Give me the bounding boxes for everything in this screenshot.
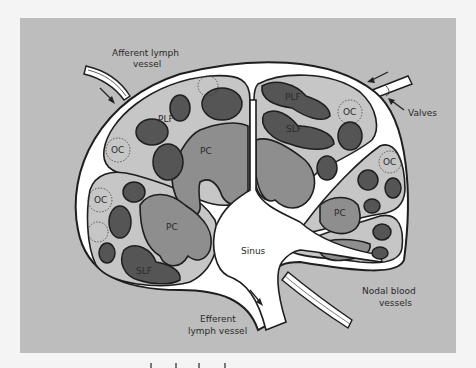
label-oc-left-upper: OC — [111, 145, 124, 155]
lymph-node-diagram: PLF PLF SLF SLF OC OC OC OC PC PC PC Aff… — [0, 0, 476, 368]
label-efferent-line2: lymph vessel — [188, 326, 247, 336]
label-oc-right-mid: OC — [383, 157, 396, 167]
label-efferent-line1: Efferent — [200, 314, 236, 324]
label-sinus: Sinus — [241, 246, 266, 256]
label-plf-left: PLF — [158, 114, 174, 124]
label-pc-top-left: PC — [200, 146, 212, 156]
label-pc-left: PC — [166, 222, 178, 232]
label-nodal-line1: Nodal blood — [362, 286, 416, 296]
label-oc-right-upper: OC — [343, 107, 356, 117]
label-pc-right: PC — [334, 208, 346, 218]
label-nodal-line2: vessels — [379, 298, 412, 308]
label-valves: Valves — [408, 108, 437, 118]
label-afferent-line1: Afferent lymph — [112, 48, 179, 58]
label-oc-left-lower: OC — [94, 195, 107, 205]
label-plf-right: PLF — [285, 92, 301, 102]
cropped-caption-fragment — [150, 363, 226, 368]
label-afferent-line2: vessel — [133, 59, 161, 69]
label-slf-left: SLF — [136, 266, 152, 276]
label-slf-right: SLF — [286, 124, 302, 134]
